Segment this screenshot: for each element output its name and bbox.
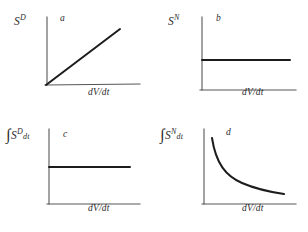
figure-canvas: SD a dV/dt SN b dV/dt ∫SDdt c dV/dt ∫SNd… (0, 0, 308, 232)
panel-c-x-axis-label: dV/dt (88, 204, 110, 214)
panel-a-data-curve (46, 29, 120, 85)
panel-c: ∫SDdt c dV/dt (0, 116, 154, 232)
integral-icon: ∫ (6, 126, 11, 143)
panel-b-letter: b (216, 14, 221, 24)
panel-a-y-axis-label: SD (14, 14, 26, 27)
panel-a-x-axis (45, 84, 140, 85)
panel-c-differential: dt (23, 132, 30, 141)
integral-icon: ∫ (160, 126, 165, 143)
panel-b-y-superscript: N (174, 13, 180, 22)
panel-a-y-superscript: D (20, 13, 26, 22)
panel-a-letter: a (60, 14, 65, 24)
panel-c-y-axis-label: ∫SDdt (6, 127, 30, 143)
panel-d-x-axis-label: dV/dt (242, 204, 264, 214)
panel-d-letter: d (226, 128, 231, 138)
panel-a-x-axis-label: dV/dt (88, 88, 110, 98)
panel-d-differential: dt (177, 132, 184, 141)
panel-a: SD a dV/dt (0, 0, 154, 116)
panel-c-letter: c (63, 130, 67, 140)
panel-b-x-axis-label: dV/dt (242, 88, 264, 98)
panel-b-y-axis-label: SN (168, 14, 180, 27)
panel-b: SN b dV/dt (154, 0, 308, 116)
panel-d-data-curve (212, 138, 284, 194)
panel-d: ∫SNdt d dV/dt (154, 116, 308, 232)
panel-d-y-axis-label: ∫SNdt (160, 127, 183, 143)
